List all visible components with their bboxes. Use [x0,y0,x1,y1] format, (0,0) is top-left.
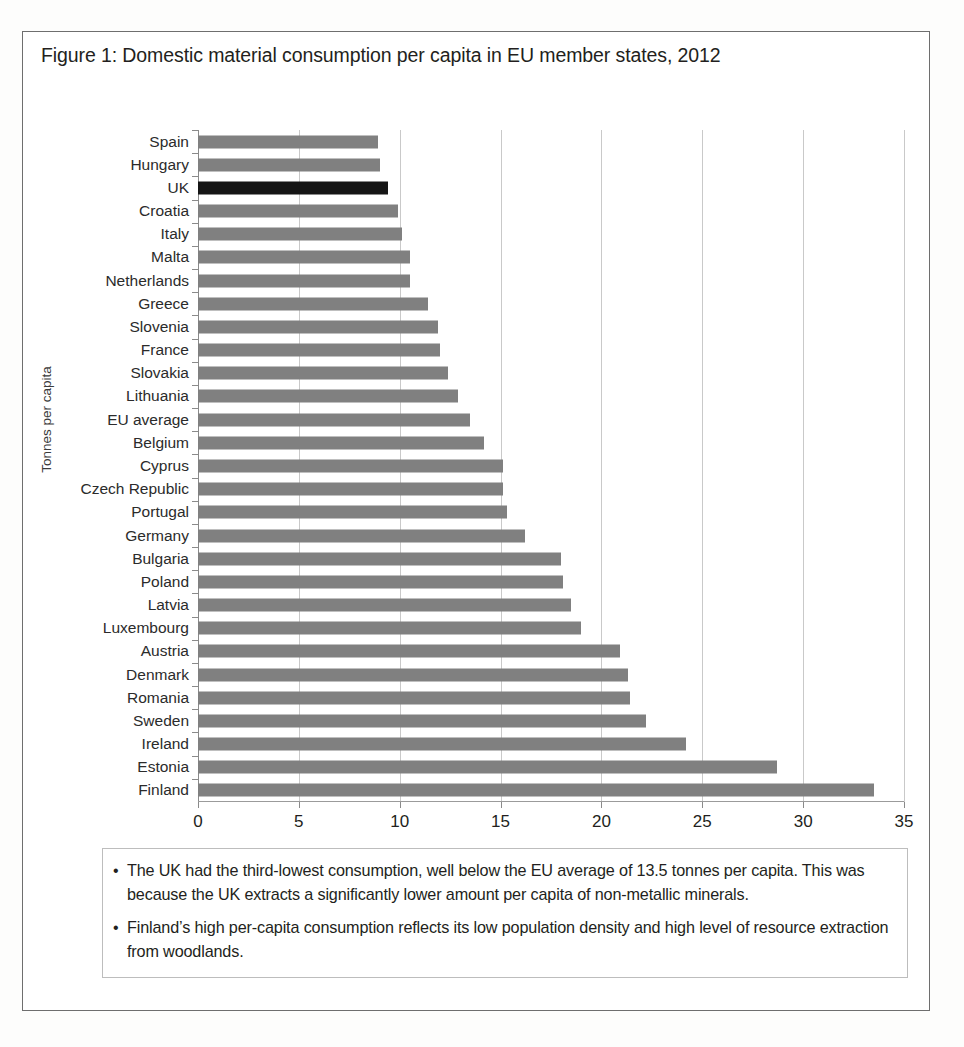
bar-row[interactable]: Latvia [198,593,904,616]
bar-spain[interactable] [198,135,378,148]
bar-row[interactable]: France [198,339,904,362]
bar-row[interactable]: Cyprus [198,454,904,477]
bar-row[interactable]: Ireland [198,732,904,755]
y-tick-mark [192,501,198,502]
bar-row[interactable]: Belgium [198,431,904,454]
category-label-cyprus: Cyprus [140,457,189,475]
bullet-icon: • [113,859,127,882]
y-tick-mark [192,385,198,386]
bar-row[interactable]: Lithuania [198,385,904,408]
figure-title: Figure 1: Domestic material consumption … [41,41,907,70]
x-tick-label: 25 [693,812,712,832]
bar-denmark[interactable] [198,668,628,681]
bar-netherlands[interactable] [198,274,410,287]
x-tick-label: 15 [491,812,510,832]
bar-estonia[interactable] [198,761,777,774]
bar-row[interactable]: Spain [198,130,904,153]
category-label-romania: Romania [127,689,189,707]
y-tick-mark [192,570,198,571]
y-tick-mark [192,269,198,270]
y-tick-mark [192,686,198,687]
x-tick-label: 10 [390,812,409,832]
bar-row[interactable]: Poland [198,570,904,593]
bar-sweden[interactable] [198,714,646,727]
category-label-finland: Finland [138,781,189,799]
bar-row[interactable]: Slovakia [198,362,904,385]
plot-region: 05101520253035 SpainHungaryUKCroatiaItal… [198,130,904,820]
y-tick-mark [192,478,198,479]
category-label-latvia: Latvia [148,596,189,614]
category-label-luxembourg: Luxembourg [103,619,189,637]
bar-row[interactable]: Denmark [198,663,904,686]
bar-row[interactable]: Hungary [198,153,904,176]
y-tick-mark [192,524,198,525]
category-label-uk: UK [167,179,189,197]
y-tick-mark [192,663,198,664]
bar-austria[interactable] [198,645,620,658]
bar-row[interactable]: Finland [198,779,904,802]
category-label-bulgaria: Bulgaria [132,550,189,568]
y-tick-mark [192,732,198,733]
category-label-spain: Spain [149,133,189,151]
category-label-netherlands: Netherlands [105,272,189,290]
y-tick-mark [192,362,198,363]
bar-uk[interactable] [198,181,388,194]
bullet-icon: • [113,916,127,939]
bar-row[interactable]: Malta [198,246,904,269]
category-label-hungary: Hungary [130,156,189,174]
bar-eu-average[interactable] [198,413,470,426]
y-tick-mark [192,593,198,594]
bar-row[interactable]: Slovenia [198,315,904,338]
y-tick-mark [192,431,198,432]
bar-romania[interactable] [198,691,630,704]
bar-hungary[interactable] [198,158,380,171]
bar-row[interactable]: Croatia [198,200,904,223]
bar-row[interactable]: UK [198,176,904,199]
bar-row[interactable]: Germany [198,524,904,547]
bar-row[interactable]: Romania [198,686,904,709]
bar-belgium[interactable] [198,436,484,449]
bar-row[interactable]: Portugal [198,501,904,524]
bar-slovakia[interactable] [198,367,448,380]
x-tick-label: 5 [294,812,303,832]
bar-row[interactable]: Czech Republic [198,478,904,501]
bar-italy[interactable] [198,228,402,241]
bar-lithuania[interactable] [198,390,458,403]
bar-finland[interactable] [198,784,874,797]
bar-czech-republic[interactable] [198,483,503,496]
bar-row[interactable]: Greece [198,292,904,315]
bar-rows: SpainHungaryUKCroatiaItalyMaltaNetherlan… [198,130,904,802]
bar-row[interactable]: Austria [198,640,904,663]
y-tick-mark [192,200,198,201]
bar-malta[interactable] [198,251,410,264]
bar-row[interactable]: EU average [198,408,904,431]
bar-portugal[interactable] [198,506,507,519]
y-tick-mark [192,223,198,224]
bar-row[interactable]: Netherlands [198,269,904,292]
bar-bulgaria[interactable] [198,552,561,565]
bar-row[interactable]: Sweden [198,709,904,732]
y-tick-mark [192,779,198,780]
category-label-slovenia: Slovenia [130,318,189,336]
bar-luxembourg[interactable] [198,622,581,635]
bar-slovenia[interactable] [198,320,438,333]
note-text: The UK had the third-lowest consumption,… [127,859,893,906]
bar-row[interactable]: Bulgaria [198,547,904,570]
bar-row[interactable]: Estonia [198,756,904,779]
bar-greece[interactable] [198,297,428,310]
notes-box: •The UK had the third-lowest consumption… [102,848,908,978]
bar-cyprus[interactable] [198,459,503,472]
category-label-sweden: Sweden [133,712,189,730]
y-tick-mark [192,339,198,340]
y-tick-mark [192,246,198,247]
bar-germany[interactable] [198,529,525,542]
bar-row[interactable]: Italy [198,223,904,246]
bar-row[interactable]: Luxembourg [198,617,904,640]
bar-ireland[interactable] [198,738,686,751]
bar-poland[interactable] [198,575,563,588]
bar-latvia[interactable] [198,599,571,612]
figure-container: Figure 1: Domestic material consumption … [22,31,930,1011]
x-tick-mark-20 [601,802,602,808]
bar-france[interactable] [198,344,440,357]
bar-croatia[interactable] [198,205,398,218]
